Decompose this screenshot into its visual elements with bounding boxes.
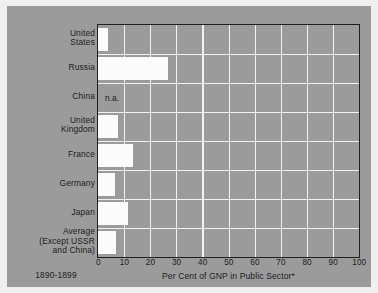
x-tick-label: 70	[276, 258, 285, 267]
bar	[98, 144, 133, 167]
bar	[98, 28, 108, 51]
x-tick-label: 30	[172, 258, 181, 267]
bar	[98, 231, 116, 254]
period-caption: 1890-1899	[15, 270, 97, 280]
x-tick-label: 20	[146, 258, 155, 267]
category-label: Russia	[7, 63, 95, 73]
category-label: Germany	[7, 179, 95, 189]
bar	[98, 173, 115, 196]
category-axis: United StatesRussiaChinaUnited KingdomFr…	[7, 24, 99, 256]
x-tick-label: 10	[120, 258, 129, 267]
x-tick-label: 0	[96, 258, 101, 267]
category-label: Japan	[7, 208, 95, 218]
x-tick-label: 80	[302, 258, 311, 267]
bar	[98, 57, 168, 80]
category-label: Average (Except USSR and China)	[7, 227, 95, 256]
bar	[98, 202, 128, 225]
x-tick-label: 40	[198, 258, 207, 267]
plot-area: n.a.	[97, 24, 360, 258]
category-label: France	[7, 150, 95, 160]
x-tick-label: 100	[352, 258, 366, 267]
x-axis-title: Per Cent of GNP in Public Sector*	[97, 271, 360, 281]
x-tick-label: 60	[250, 258, 259, 267]
category-label: United States	[7, 29, 95, 48]
x-axis-ticks: 0102030405060708090100	[97, 258, 360, 270]
x-tick-label: 90	[329, 258, 338, 267]
bar	[98, 115, 118, 138]
chart-figure: United StatesRussiaChinaUnited KingdomFr…	[7, 6, 371, 287]
x-tick-label: 50	[224, 258, 233, 267]
bar-value-label: n.a.	[105, 93, 119, 103]
category-label: United Kingdom	[7, 116, 95, 135]
bars-layer: n.a.	[98, 25, 359, 257]
category-label: China	[7, 92, 95, 102]
